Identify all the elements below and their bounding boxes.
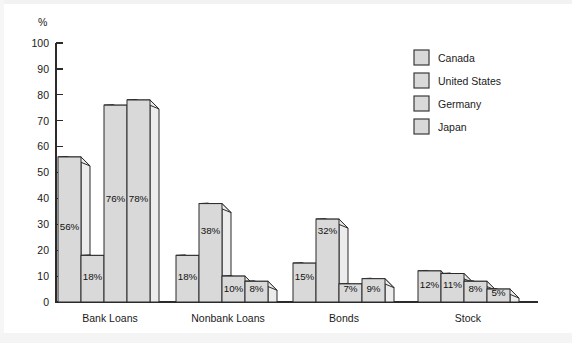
- legend-item-label: United States: [438, 75, 501, 87]
- bar-side-face: [150, 100, 159, 302]
- bar-value-label: 5%: [491, 287, 505, 298]
- y-tick-label: 10: [37, 270, 49, 282]
- bar-value-label: 76%: [106, 193, 126, 204]
- y-tick-label: 60: [37, 140, 49, 152]
- bar-front-face: [293, 263, 316, 302]
- y-tick-label: 30: [37, 218, 49, 230]
- legend-swatch: [414, 73, 429, 88]
- bar-value-label: 78%: [129, 193, 149, 204]
- bar-value-label: 12%: [420, 279, 440, 290]
- legend-swatch: [414, 96, 429, 111]
- bar-value-label: 18%: [178, 271, 198, 282]
- bar-value-label: 9%: [366, 283, 380, 294]
- legend: CanadaUnited StatesGermanyJapan: [414, 50, 501, 134]
- y-tick-label: 0: [43, 296, 49, 308]
- category-labels: Bank LoansNonbank LoansBondsStock: [82, 312, 482, 324]
- bar-value-label: 8%: [468, 283, 482, 294]
- legend-item-label: Germany: [438, 98, 482, 110]
- legend-swatch: [414, 119, 429, 134]
- legend-swatch: [414, 50, 429, 65]
- y-axis-unit-label: %: [38, 16, 47, 28]
- bar-value-label: 11%: [443, 279, 462, 290]
- category-label: Nonbank Loans: [191, 312, 265, 324]
- bar-value-label: 15%: [295, 271, 315, 282]
- bar-value-label: 56%: [60, 221, 80, 232]
- category-label: Stock: [455, 312, 482, 324]
- legend-item-label: Canada: [438, 52, 475, 64]
- bar-front-face: [199, 204, 222, 302]
- category-label: Bonds: [329, 312, 359, 324]
- category-label: Bank Loans: [82, 312, 137, 324]
- y-tick-label: 70: [37, 115, 49, 127]
- legend-item[interactable]: Canada: [414, 50, 475, 65]
- plot-area: 0102030405060708090100 56%18%76%78%18%38…: [0, 0, 572, 343]
- legend-item[interactable]: United States: [414, 73, 501, 88]
- y-tick-label: 100: [31, 37, 49, 49]
- bar-chart-svg: 0102030405060708090100 56%18%76%78%18%38…: [0, 0, 572, 343]
- legend-item[interactable]: Germany: [414, 96, 482, 111]
- bar-value-label: 7%: [343, 283, 357, 294]
- chart-figure: 0102030405060708090100 56%18%76%78%18%38…: [0, 0, 572, 343]
- legend-item-label: Japan: [438, 121, 467, 133]
- bar-value-label: 8%: [249, 283, 263, 294]
- bar-value-label: 10%: [224, 283, 244, 294]
- bar-value-label: 38%: [201, 225, 221, 236]
- y-tick-label: 50: [37, 166, 49, 178]
- y-tick-label: 40: [37, 192, 49, 204]
- y-tick-label: 90: [37, 63, 49, 75]
- y-tick-label: 20: [37, 244, 49, 256]
- bar-value-label: 32%: [318, 225, 338, 236]
- y-tick-label: 80: [37, 89, 49, 101]
- bar-value-label: 18%: [83, 271, 103, 282]
- legend-item[interactable]: Japan: [414, 119, 467, 134]
- y-tick-labels: 0102030405060708090100: [31, 37, 49, 308]
